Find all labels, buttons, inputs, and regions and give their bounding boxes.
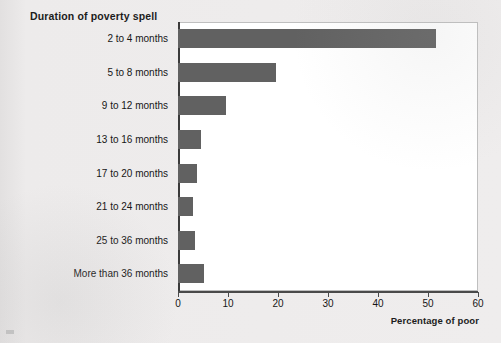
bar [178, 63, 276, 82]
x-axis-title: Percentage of poor [391, 315, 479, 326]
axis-tick-label: 10 [222, 298, 233, 309]
axis-tick-label: 50 [422, 298, 433, 309]
axis-tick-label: 30 [322, 298, 333, 309]
bar-row [178, 224, 478, 258]
category-label: 5 to 8 months [107, 56, 168, 90]
bar-row [178, 157, 478, 191]
category-label: 17 to 20 months [96, 157, 168, 191]
axis-tick [478, 292, 479, 297]
bar-row [178, 257, 478, 291]
axis-tick [378, 292, 379, 297]
axis-tick [278, 292, 279, 297]
category-label: 9 to 12 months [102, 89, 168, 123]
axis-tick [328, 292, 329, 297]
bar [178, 130, 201, 149]
axis-tick [428, 292, 429, 297]
bar [178, 29, 436, 48]
axis-tick [178, 292, 179, 297]
bar-row [178, 89, 478, 123]
axis-tick-label: 60 [472, 298, 483, 309]
category-label: 21 to 24 months [96, 190, 168, 224]
category-label: 2 to 4 months [107, 22, 168, 56]
chart-title: Duration of poverty spell [30, 10, 157, 22]
scan-artifact [6, 330, 14, 334]
bar [178, 264, 204, 283]
axis-tick-label: 20 [272, 298, 283, 309]
category-axis-labels: 2 to 4 months5 to 8 months9 to 12 months… [0, 22, 174, 291]
axis-tick-label: 40 [372, 298, 383, 309]
bar-row [178, 123, 478, 157]
bar [178, 164, 197, 183]
bar [178, 231, 195, 250]
bar [178, 197, 193, 216]
category-label: More than 36 months [74, 257, 169, 291]
bar-row [178, 22, 478, 56]
bar-chart-figure: Duration of poverty spell 2 to 4 months5… [0, 0, 501, 343]
scanned-page: Duration of poverty spell 2 to 4 months5… [0, 0, 501, 343]
category-label: 13 to 16 months [96, 123, 168, 157]
bar-row [178, 56, 478, 90]
bar-series [178, 22, 478, 291]
bar [178, 96, 226, 115]
axis-tick-label: 0 [175, 298, 181, 309]
category-label: 25 to 36 months [96, 224, 168, 258]
axis-tick [228, 292, 229, 297]
bar-row [178, 190, 478, 224]
